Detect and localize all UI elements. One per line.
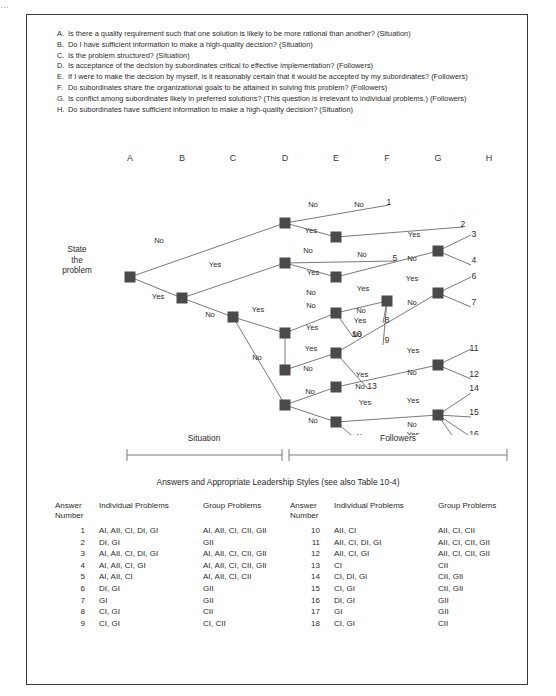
tree-node bbox=[331, 308, 342, 319]
question-item: D. Is acceptance of the decision by subo… bbox=[57, 61, 509, 71]
branch-label: Yes bbox=[252, 305, 265, 314]
branch-label: No bbox=[252, 353, 262, 362]
cell-individual-problems: DI, GI bbox=[99, 583, 203, 595]
cell-group-problems: AII, CI, CII, GII bbox=[438, 548, 524, 560]
question-letter: H. bbox=[57, 105, 68, 115]
table-body-right: 10AII, CIAII, CI, CII11AII, CI, DI, GIAI… bbox=[290, 525, 525, 629]
question-letter: D. bbox=[57, 61, 68, 71]
cell-group-problems: AII, CI, CII, GII bbox=[438, 537, 524, 549]
column-header-c: C bbox=[223, 153, 243, 163]
table-row: 15CI, GICII, GII bbox=[290, 583, 525, 595]
column-header-g: G bbox=[428, 153, 448, 163]
answer-tables: Answer Number Individual Problems Group … bbox=[55, 501, 525, 629]
branch-label: No bbox=[407, 254, 417, 263]
tree-node bbox=[433, 360, 444, 371]
outcome-number: 12 bbox=[469, 369, 479, 379]
cell-individual-problems: CI, GI bbox=[99, 618, 203, 630]
table-title: Answers and Appropriate Leadership Style… bbox=[27, 477, 529, 487]
branch-label: No bbox=[306, 288, 316, 297]
question-letter: A. bbox=[57, 29, 68, 39]
table-row: 8CI, GICII bbox=[55, 606, 290, 618]
question-item: A. Is there a quality requirement such t… bbox=[57, 29, 509, 39]
cell-answer-number: 10 bbox=[290, 525, 334, 537]
cell-answer-number: 17 bbox=[290, 606, 334, 618]
table-row: 12AII, CI, GIAII, CI, CII, GII bbox=[290, 548, 525, 560]
branch-label: Yes bbox=[305, 226, 318, 235]
cell-group-problems: CII, GII bbox=[438, 583, 524, 595]
header-individual: Individual Problems bbox=[334, 501, 438, 521]
cell-answer-number: 11 bbox=[290, 537, 334, 549]
cell-answer-number: 6 bbox=[55, 583, 99, 595]
branch-label: Yes bbox=[406, 274, 419, 283]
tree-node bbox=[280, 218, 291, 229]
answer-table-right: Answer Number Individual Problems Group … bbox=[290, 501, 525, 629]
branch-label: No bbox=[308, 200, 318, 209]
table-row: 18CI, GICII bbox=[290, 618, 525, 630]
cell-group-problems: CII bbox=[438, 618, 524, 630]
outcome-number: 4 bbox=[472, 255, 477, 265]
table-row: 9CI, GICI, CII bbox=[55, 618, 290, 630]
header-group: Group Problems bbox=[438, 501, 524, 521]
branch-label: Yes bbox=[305, 344, 318, 353]
tree-edge bbox=[182, 263, 285, 298]
table-header-row: Answer Number Individual Problems Group … bbox=[55, 501, 290, 521]
cell-group-problems: GII bbox=[203, 537, 289, 549]
branch-label: No bbox=[305, 387, 315, 396]
header-group: Group Problems bbox=[203, 501, 289, 521]
column-header-a: A bbox=[120, 153, 140, 163]
question-text: Is there a quality requirement such that… bbox=[68, 29, 509, 39]
cell-group-problems: AI, AII, CI, CII bbox=[203, 571, 289, 583]
question-letter: C. bbox=[57, 51, 68, 61]
cell-answer-number: 9 bbox=[55, 618, 99, 630]
cell-individual-problems: DI, GI bbox=[99, 537, 203, 549]
cell-answer-number: 14 bbox=[290, 571, 334, 583]
question-letter: F. bbox=[57, 83, 68, 93]
outcome-number: 1 bbox=[387, 197, 392, 207]
column-header-d: D bbox=[275, 153, 295, 163]
branch-label: Yes bbox=[306, 323, 319, 332]
cell-group-problems: CII bbox=[438, 560, 524, 572]
branch-label: Yes bbox=[357, 284, 370, 293]
branch-label: No bbox=[303, 364, 313, 373]
cell-individual-problems: AI, AII, CI, DI, GI bbox=[99, 525, 203, 537]
tree-node bbox=[433, 288, 444, 299]
cell-group-problems: AI, AII, CI, CII, GII bbox=[203, 525, 289, 537]
cell-group-problems: GII bbox=[203, 583, 289, 595]
tree-node bbox=[331, 417, 342, 428]
cell-group-problems: CII, GII bbox=[438, 571, 524, 583]
column-header-h: H bbox=[479, 153, 499, 163]
table-row: 17GIGII bbox=[290, 606, 525, 618]
tree-node bbox=[280, 328, 291, 339]
cell-individual-problems: CI, DI, GI bbox=[334, 571, 438, 583]
cell-individual-problems: CI, GI bbox=[334, 583, 438, 595]
cell-answer-number: 3 bbox=[55, 548, 99, 560]
cell-answer-number: 4 bbox=[55, 560, 99, 572]
branch-label: No bbox=[407, 298, 417, 307]
question-text: Is acceptance of the decision by subordi… bbox=[68, 61, 509, 71]
cell-individual-problems: AII, CI, GI bbox=[334, 548, 438, 560]
table-row: 10AII, CIAII, CI, CII bbox=[290, 525, 525, 537]
question-letter: G. bbox=[57, 94, 68, 104]
header-answer-number: Answer Number bbox=[55, 501, 99, 521]
tree-edge bbox=[336, 365, 438, 387]
cell-answer-number: 1 bbox=[55, 525, 99, 537]
cell-individual-problems: AII, CI, DI, GI bbox=[334, 537, 438, 549]
table-row: 6DI, GIGII bbox=[55, 583, 290, 595]
question-letter: E. bbox=[57, 72, 68, 82]
cell-group-problems: GII bbox=[203, 595, 289, 607]
cell-group-problems: GII bbox=[438, 606, 524, 618]
branch-label: No bbox=[354, 200, 364, 209]
branch-label: No bbox=[154, 236, 164, 245]
outcome-number: 3 bbox=[472, 229, 477, 239]
decision-tree: Statetheproblem NoYesYesNoYesNoNoYesNoYe… bbox=[27, 165, 529, 435]
cell-individual-problems: AII, CI bbox=[334, 525, 438, 537]
table-row: 11AII, CI, DI, GIAII, CI, CII, GII bbox=[290, 537, 525, 549]
root-label: Statetheproblem bbox=[47, 245, 107, 277]
tree-edge bbox=[336, 415, 438, 422]
cell-group-problems: CI, CII bbox=[203, 618, 289, 630]
tree-node bbox=[382, 296, 393, 307]
outcome-number: 11 bbox=[470, 343, 479, 353]
cell-individual-problems: GI bbox=[334, 606, 438, 618]
tree-node bbox=[280, 400, 291, 411]
tree-node bbox=[331, 232, 342, 243]
